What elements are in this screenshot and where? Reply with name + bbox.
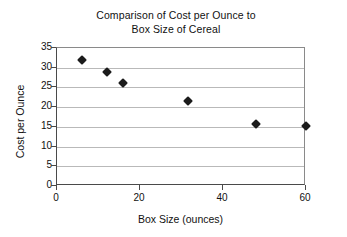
- scatter-chart-figure: Comparison of Cost per Ounce to Box Size…: [0, 0, 347, 237]
- x-tick-label-60: 60: [285, 192, 325, 203]
- gridline-y-10: [57, 147, 304, 148]
- gridline-y-5: [57, 166, 304, 167]
- x-tick-mark-20: [139, 185, 140, 190]
- y-tick-label-30: 30: [18, 62, 52, 72]
- y-tick-label-15: 15: [18, 121, 52, 131]
- y-axis-tick-labels: 05101520253035: [14, 47, 52, 185]
- data-point: [77, 55, 87, 65]
- y-tick-label-25: 25: [18, 81, 52, 91]
- plot-area: [56, 47, 305, 185]
- gridline-y-20: [57, 107, 304, 108]
- x-tick-label-40: 40: [202, 192, 242, 203]
- gridline-y-30: [57, 68, 304, 69]
- y-tick-label-20: 20: [18, 101, 52, 111]
- y-tick-label-5: 5: [18, 160, 52, 170]
- x-tick-label-0: 0: [36, 192, 76, 203]
- y-tick-label-0: 0: [18, 180, 52, 190]
- gridline-y-25: [57, 87, 304, 88]
- gridline-y-15: [57, 127, 304, 128]
- x-tick-label-20: 20: [119, 192, 159, 203]
- data-point: [183, 96, 193, 106]
- y-tick-label-35: 35: [18, 42, 52, 52]
- chart-title-line-1: Comparison of Cost per Ounce to: [45, 8, 307, 22]
- x-tick-mark-60: [305, 185, 306, 190]
- x-tick-mark-0: [56, 185, 57, 190]
- chart-title-line-2: Box Size of Cereal: [45, 22, 307, 36]
- y-tick-label-10: 10: [18, 141, 52, 151]
- x-tick-mark-40: [222, 185, 223, 190]
- x-axis-title: Box Size (ounces): [56, 213, 305, 225]
- data-point: [301, 121, 311, 131]
- chart-title: Comparison of Cost per Ounce to Box Size…: [45, 8, 307, 36]
